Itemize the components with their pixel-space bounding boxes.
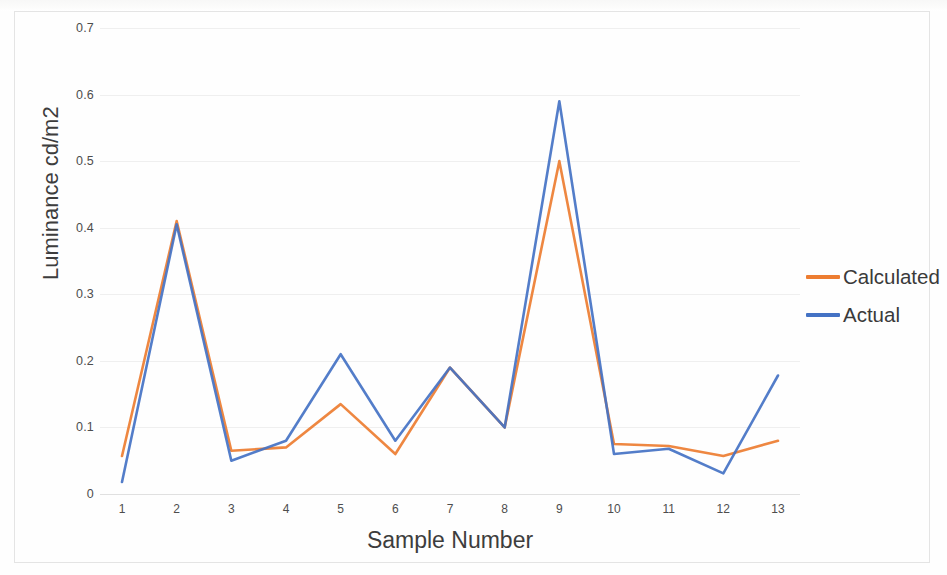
y-axis-tick-label: 0.3 [34, 287, 94, 301]
x-axis-tick-label: 2 [157, 502, 197, 516]
x-axis-tick-label: 4 [266, 502, 306, 516]
x-axis-tick-label: 10 [594, 502, 634, 516]
y-axis-tick-label: 0 [34, 487, 94, 501]
legend-label: Calculated [843, 265, 940, 289]
legend-swatch-icon [806, 275, 840, 279]
x-axis-tick-label: 7 [430, 502, 470, 516]
x-axis-tick-label: 9 [539, 502, 579, 516]
x-axis-title: Sample Number [100, 527, 800, 554]
y-axis-title: Luminance cd/m2 [38, 106, 64, 280]
x-axis-tick-label: 5 [321, 502, 361, 516]
series-line-actual [122, 101, 778, 482]
x-axis-line [100, 494, 800, 495]
legend-swatch-icon [806, 313, 840, 317]
legend-item-actual[interactable]: Actual [806, 296, 936, 334]
x-axis-tick-label: 8 [485, 502, 525, 516]
y-axis-tick-label: 0.2 [34, 354, 94, 368]
x-axis-tick-label: 12 [703, 502, 743, 516]
page-edge-smudge [0, 0, 947, 11]
x-axis-tick-label: 6 [375, 502, 415, 516]
y-axis-tick-label: 0.6 [34, 88, 94, 102]
chart-screenshot: Luminance cd/m2 00.10.20.30.40.50.60.7 1… [0, 0, 947, 575]
y-axis-tick-label: 0.4 [34, 221, 94, 235]
x-axis-tick-label: 13 [758, 502, 798, 516]
x-axis-tick-label: 1 [102, 502, 142, 516]
y-axis-tick-label: 0.5 [34, 154, 94, 168]
x-axis-tick-label: 3 [211, 502, 251, 516]
plot-area: 00.10.20.30.40.50.60.7 12345678910111213 [100, 28, 800, 494]
chart-legend: CalculatedActual [806, 258, 936, 334]
y-axis-tick-label: 0.7 [34, 21, 94, 35]
y-axis-tick-label: 0.1 [34, 420, 94, 434]
x-axis-tick-label: 11 [649, 502, 689, 516]
series-lines [100, 28, 800, 494]
legend-label: Actual [843, 303, 900, 327]
legend-item-calculated[interactable]: Calculated [806, 258, 936, 296]
